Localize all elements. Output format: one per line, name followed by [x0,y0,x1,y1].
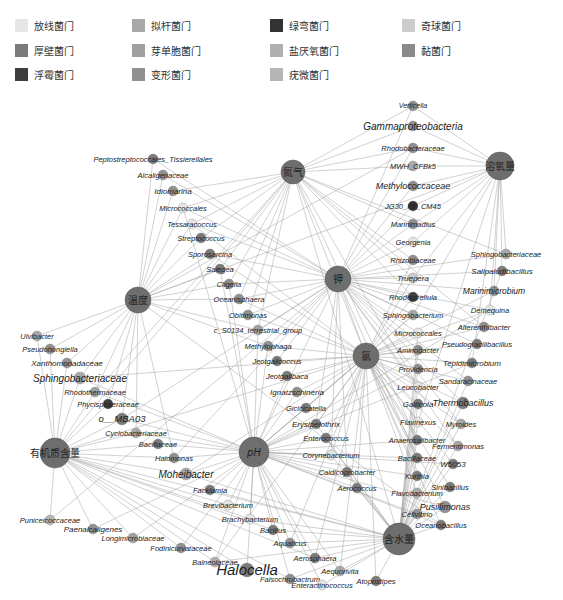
taxon-node: Gicicicatella [286,403,326,413]
taxon-label: Micrococcales [159,204,207,213]
taxon-label: Fodinicurvataceae [150,544,211,553]
taxon-label: Paenalcaligenes [64,525,123,534]
taxon-label: Aquaticus [273,539,307,548]
environment-factor-node: 含水量 [383,523,415,555]
taxon-label: Jeotgalicoccus [251,357,301,366]
taxon-node: Phycisphaeraceae [77,399,139,409]
taxon-label: Halomonas [155,454,193,463]
taxon-node: Streptococcus [177,233,225,243]
taxon-label: Pseudohongiella [22,345,77,354]
taxon-label: Salegea [206,265,234,274]
taxon-label: Micrococcales [394,329,442,338]
network-edge [174,279,338,458]
taxon-label: Alterenthibacter [457,323,511,332]
taxon-label: Ulvibacter [20,332,54,341]
taxon-node: Oceanisphaera [214,294,265,304]
taxon-node: Ulvibacter [20,331,54,341]
taxon-node: Demequina [471,305,509,315]
taxon-label: Obitimonas [229,311,267,320]
taxon-node: Corynebacterium [302,450,359,460]
taxon-label: Oceanisphaera [214,295,265,304]
taxon-label: Aerococcus [336,484,376,493]
taxon-label: Puniceicoccaceae [20,516,80,525]
taxon-label: Sinibacillus [431,483,469,492]
taxon-node: Oceanobacillus [415,520,467,530]
taxon-label: Gammaproteobacteria [363,121,463,132]
network-edge [133,452,254,538]
taxon-label: Peptostreptococcales_Tissierellales [93,155,212,164]
taxon-label: Gicicicatella [286,404,326,413]
taxon-node: Cyclobacteriaceae [105,428,167,438]
taxon-node: Sandaracinaceae [439,376,497,386]
taxon-label: Xanthomonadaceae [30,359,103,368]
taxon-label: Idiomarina [154,187,192,196]
factor-label: 氯 [361,350,371,362]
taxon-label: Pseudogracilibacillus [442,340,512,349]
taxon-node: MWH_CFBk5 [390,161,437,171]
network-edge [229,279,338,284]
taxon-node: Bacillaceae [398,453,436,463]
taxon-label: Leucobacter [397,383,439,392]
taxon-label: Rhodopirellula [389,293,437,302]
taxon-node: Marinimadius [391,219,436,229]
taxon-node: Myroides [446,419,477,429]
taxon-node: Rhodothermaceae [64,387,126,397]
taxon-node: Paenalcaligenes [64,524,123,534]
taxon-label: Verticella [399,102,428,109]
taxon-node: Moheibacter [158,468,214,480]
taxon-label: Brachybacterium [222,515,278,524]
taxon-node: Pseudohongiella [22,344,77,354]
taxon-label: Salipaludibacillus [471,267,532,276]
taxon-label: Sphingobacteriaceae [33,373,127,384]
taxon-node: Jeotgalicoccus [251,356,301,366]
taxon-node: Sphingobacterium [383,310,443,320]
taxon-node: W5053 [440,459,466,469]
taxon-label: Longimicrobiaceae [102,534,165,543]
network-edge [229,284,254,452]
taxon-label: Rhizobiaceae [390,256,435,265]
taxon-node: Puniceicoccaceae [20,515,80,525]
taxon-node: Fodinicurvataceae [150,543,211,553]
taxon-label: Gallicola [403,400,434,409]
taxon-node: Truepera [397,273,429,283]
taxon-node: Pseudogracilibacillus [442,339,512,349]
taxon-node: Brachybacterium [222,514,278,524]
environment-factor-node: 氮气 [281,160,305,184]
taxon-label: Phycisphaeraceae [77,400,139,409]
taxon-label: Fermentimonas [432,442,484,451]
taxon-label: Thermobacillus [432,398,494,408]
taxon-node: Tessaracoccus [167,219,217,229]
environment-factor-node: 溶氧量 [485,152,515,180]
taxon-node: Salipaludibacillus [471,266,532,276]
factor-label: 温度 [128,294,148,306]
taxon-label: W5053 [440,460,466,469]
taxon-node: Thermobacillus [432,397,494,409]
taxon-label: Bacillaceae [139,440,177,449]
taxon-node: Enterococcus [303,433,349,443]
taxon-label: Aminobacter [396,346,440,355]
taxon-node: Georgenia [395,237,430,247]
taxon-label: Streptococcus [177,234,225,243]
taxon-label: Methylococcaceae [376,181,451,191]
taxon-node: c_S0134_terrestrial_group [214,325,302,335]
taxon-node: Sphingobacteriaceae [33,372,127,384]
taxon-node: Kurthia [405,471,429,481]
taxon-label: Sphingobacteriaceae [471,250,541,259]
taxon-node: Sphingobacteriaceae [471,249,541,259]
network-edge [338,279,347,472]
taxon-label: Oceanobacillus [415,521,467,530]
taxon-node: Aequorivita [320,566,359,576]
network-edge [413,166,500,224]
taxon-node: Caldicoprobacter [319,467,376,477]
taxon-label: Aequorivita [320,567,359,576]
taxon-node: Alterenthibacter [457,322,511,332]
factor-label: pH [246,447,261,458]
taxon-node: Cligella [217,279,242,289]
factor-label: 有机质含量 [30,447,80,459]
taxon-label: Erysipelothrix [292,420,341,429]
taxon-label: Caldicoprobacter [319,468,376,477]
taxon-label: Myroides [446,420,477,429]
taxon-label: Flavinexus [400,418,436,427]
taxon-label: Atopostipes [355,577,395,586]
taxon-label: Providencia [398,365,437,374]
